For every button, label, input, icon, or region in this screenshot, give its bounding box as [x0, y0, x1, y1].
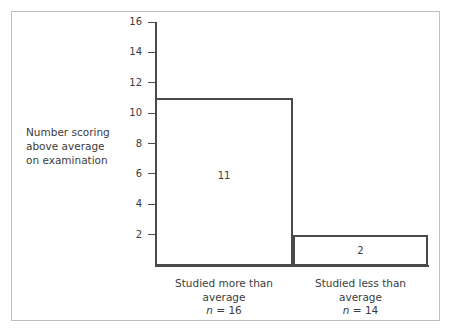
- y-axis-tick: [148, 22, 156, 23]
- y-axis-title: Number scoringabove averageon examinatio…: [26, 125, 130, 167]
- y-axis-tick: [148, 82, 156, 83]
- y-axis-tick-label-text: 16: [114, 17, 142, 27]
- y-axis-tick-label-text: 10: [114, 108, 142, 118]
- bar: [155, 98, 293, 266]
- bar-chart-plot-area: 246810121416 Number scoringabove average…: [0, 0, 456, 336]
- y-axis-tick-label-text: 12: [114, 78, 142, 88]
- y-axis-tick-label: 12: [112, 78, 142, 88]
- y-axis-tick-label: 6: [112, 169, 142, 179]
- x-axis-category-label-line: Studied less than: [293, 277, 428, 291]
- y-axis-tick: [148, 52, 156, 53]
- x-axis-category-label-line: average: [155, 291, 293, 305]
- x-axis-sample-size-label: n = 14: [293, 304, 428, 318]
- y-axis-tick-label: 2: [112, 230, 142, 240]
- y-axis-tick-label: 14: [112, 47, 142, 57]
- x-axis-category-label-line: Studied more than: [155, 277, 293, 291]
- y-axis-tick-label: 16: [112, 17, 142, 27]
- y-axis-tick-label: 10: [112, 108, 142, 118]
- y-axis-title-line: on examination: [26, 153, 130, 167]
- x-axis-category-label: Studied less thanaveragen = 14: [293, 277, 428, 318]
- y-axis-tick-label-text: 14: [114, 47, 142, 57]
- y-axis-title-line: Number scoring: [26, 125, 130, 139]
- bar-value-label: 2: [293, 246, 428, 256]
- bar-value-label: 11: [155, 171, 293, 181]
- y-axis-tick-label-text: 2: [114, 230, 142, 240]
- x-axis-baseline: [155, 265, 429, 267]
- x-axis-category-label: Studied more thanaveragen = 16: [155, 277, 293, 318]
- x-axis-category-label-line: average: [293, 291, 428, 305]
- y-axis-tick-label-text: 6: [114, 169, 142, 179]
- y-axis-title-line: above average: [26, 139, 130, 153]
- x-axis-sample-size-label: n = 16: [155, 304, 293, 318]
- y-axis-tick-label: 4: [112, 199, 142, 209]
- y-axis-tick-label-text: 4: [114, 199, 142, 209]
